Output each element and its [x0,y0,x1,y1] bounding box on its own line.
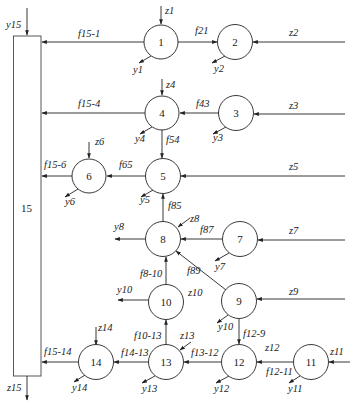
node-10: y10 z10 10 [116,284,203,320]
svg-text:y13: y13 [141,383,157,394]
svg-text:5: 5 [160,170,166,182]
svg-text:y6: y6 [64,196,76,207]
svg-text:z7: z7 [288,225,299,236]
svg-text:y8: y8 [113,221,125,232]
svg-text:y12: y12 [213,383,230,394]
svg-text:y5: y5 [139,194,150,205]
svg-text:y2: y2 [213,63,225,74]
svg-text:y11: y11 [287,383,302,394]
svg-text:z5: z5 [288,161,298,172]
svg-text:6: 6 [86,170,92,182]
svg-text:12: 12 [234,356,245,368]
svg-text:4: 4 [159,107,165,119]
svg-text:13: 13 [161,356,173,368]
node-2: z2 y2 2 [212,25,345,75]
svg-text:3: 3 [233,107,239,119]
svg-text:9: 9 [236,295,242,307]
svg-text:f15-4: f15-4 [78,98,101,109]
svg-text:7: 7 [237,233,243,245]
node-7: z7 y7 7 [214,222,345,273]
svg-text:y10: y10 [116,284,133,295]
flow-network-diagram: 15 y15 z15 z1 f15-1 y1 1 f21 z2 y2 2 z4 … [0,0,352,408]
edge-f13-12-label: f13-12 [191,347,219,358]
svg-text:y4: y4 [134,133,146,144]
svg-text:10: 10 [161,296,173,308]
node-5: z5 y5 5 [139,159,345,206]
node-8: y8 z8 8 [113,213,200,257]
edge-f65-label: f65 [119,159,132,170]
svg-text:11: 11 [306,356,317,368]
svg-text:z3: z3 [288,100,298,111]
edge-f8-10-label: f8-10 [140,268,163,279]
edge-f54-label: f54 [166,134,180,145]
svg-text:z4: z4 [165,79,176,90]
svg-text:2: 2 [232,36,238,48]
svg-text:y10: y10 [217,321,234,332]
y15-label: y15 [5,19,21,30]
svg-text:z11: z11 [329,346,344,357]
edge-f10-13-label: f10-13 [134,330,161,341]
node-6: z6 f15-6 y6 6 [42,136,106,207]
svg-text:1: 1 [158,36,164,48]
edge-f12-11-label: f12-11 [266,366,293,377]
box-15: 15 y15 z15 [5,8,41,400]
svg-text:z12: z12 [264,342,280,353]
svg-text:f15-14: f15-14 [44,346,72,357]
svg-text:f15-1: f15-1 [78,28,100,39]
edge-f12-9-label: f12-9 [243,328,266,339]
svg-text:z8: z8 [189,213,200,224]
svg-text:f15-6: f15-6 [44,159,67,170]
node-9: z9 y10 9 [217,284,345,333]
edge-f14-13-label: f14-13 [121,347,148,358]
edge-f87-label: f87 [200,224,214,235]
svg-text:z10: z10 [187,287,203,298]
box-15-label: 15 [21,202,33,214]
svg-text:z9: z9 [288,286,299,297]
z15-label: z15 [6,382,22,393]
node-14: z14 f15-14 y14 14 [42,322,114,393]
svg-text:z14: z14 [97,322,113,333]
svg-text:8: 8 [160,233,166,245]
node-1: z1 f15-1 y1 1 [42,5,178,75]
svg-text:z1: z1 [164,5,174,16]
svg-text:14: 14 [91,356,103,368]
node-11: z11 y11 11 [287,345,350,395]
svg-text:y14: y14 [71,382,88,393]
node-4: z4 f15-4 y4 4 [42,79,179,144]
svg-text:y7: y7 [214,261,226,272]
svg-text:y3: y3 [212,132,223,143]
edge-f43-label: f43 [196,98,209,109]
svg-text:z13: z13 [179,330,195,341]
edge-f85-label: f85 [168,200,181,211]
svg-text:z6: z6 [94,136,105,147]
edge-f89-label: f89 [187,265,201,276]
svg-text:y1: y1 [132,64,143,75]
node-3: z3 y3 3 [212,96,345,144]
edge-f21-label: f21 [195,25,208,36]
svg-text:z2: z2 [288,27,299,38]
